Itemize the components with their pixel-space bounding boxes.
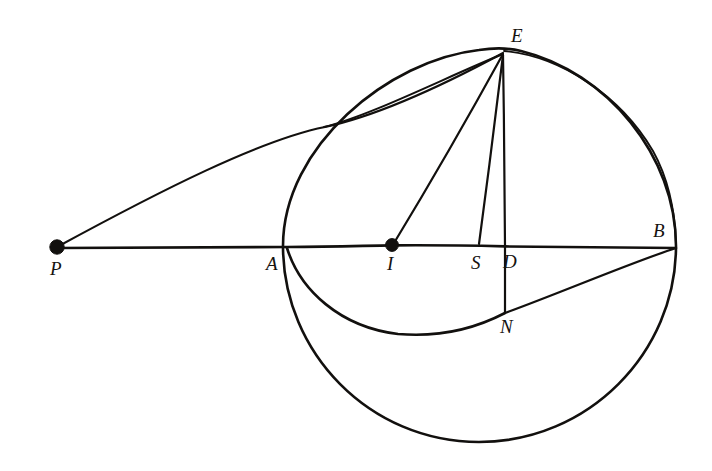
line-E-S xyxy=(479,55,503,244)
main-circle-overstroke xyxy=(504,51,676,244)
point-label-P: P xyxy=(50,259,62,278)
axis-P-B xyxy=(57,245,676,248)
point-label-S: S xyxy=(471,253,481,272)
point-label-A: A xyxy=(266,254,278,273)
point-label-B: B xyxy=(653,221,665,240)
line-E-I xyxy=(394,54,503,243)
point-label-E: E xyxy=(511,26,523,45)
chord-crossing-E xyxy=(324,54,503,127)
point-label-I: I xyxy=(387,254,393,273)
line-N-B xyxy=(505,248,676,313)
point-label-N: N xyxy=(500,317,513,336)
vertical-E-N xyxy=(503,55,505,313)
point-dot-P xyxy=(50,240,64,254)
point-label-D: D xyxy=(503,252,517,271)
geometric-figure: P A I S D B E N xyxy=(0,0,712,471)
point-dot-I xyxy=(386,239,399,252)
figure-canvas xyxy=(0,0,712,471)
